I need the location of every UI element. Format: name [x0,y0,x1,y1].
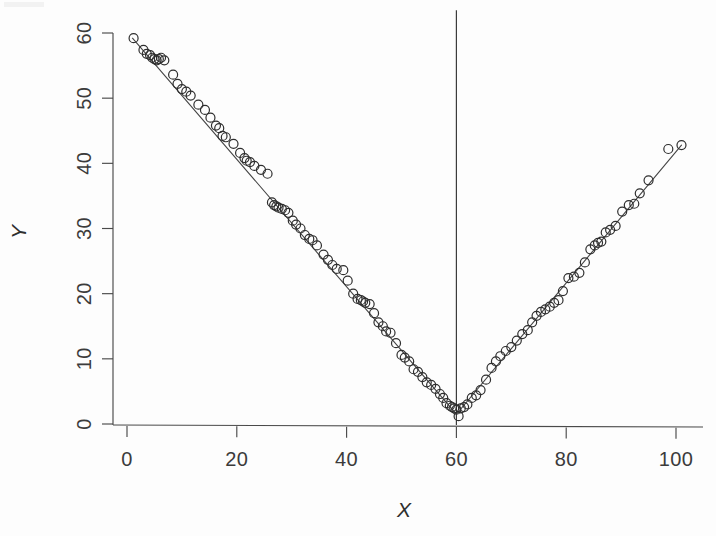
data-point [169,70,178,79]
data-point [664,145,673,154]
x-axis: 020406080100 X [113,425,703,521]
data-point [200,105,209,114]
y-tick-label-60: 60 [73,21,95,44]
x-tick-label-60: 60 [445,448,468,470]
data-point [339,266,348,275]
figure-container: 0102030405060 Y 020406080100 X [0,0,716,536]
data-point [129,34,138,43]
x-tick-label-100: 100 [659,448,694,470]
data-point [221,133,230,142]
y-axis-title: Y [7,223,30,239]
data-point [263,169,272,178]
y-tick-label-40: 40 [73,152,95,175]
x-tick-group [127,426,676,439]
data-point [229,139,238,148]
y-tick-label-30: 30 [73,217,95,240]
data-point [580,258,589,267]
y-tick-label-10: 10 [73,347,95,370]
data-point [206,113,215,122]
y-tick-label-50: 50 [73,87,95,110]
x-tick-label-20: 20 [225,448,248,470]
x-tick-label-group: 020406080100 [121,448,693,470]
scatter-plot: 0102030405060 Y 020406080100 X [0,0,716,536]
scan-artifact [4,2,44,7]
data-point [392,339,401,348]
data-point-group [129,34,686,421]
data-point [370,309,379,318]
x-tick-label-0: 0 [121,448,133,470]
y-tick-label-group: 0102030405060 [73,21,95,429]
data-point [528,318,537,327]
x-axis-line [113,425,703,427]
data-point [482,375,491,384]
y-tick-label-20: 20 [73,282,95,305]
data-point [635,189,644,198]
x-tick-label-40: 40 [335,448,358,470]
y-tick-label-0: 0 [73,418,95,430]
y-tick-group [102,33,113,424]
y-axis: 0102030405060 Y [7,21,113,429]
x-tick-label-80: 80 [555,448,578,470]
data-point [343,276,352,285]
data-point [630,199,639,208]
data-point [256,165,265,174]
x-axis-title: X [396,498,412,521]
